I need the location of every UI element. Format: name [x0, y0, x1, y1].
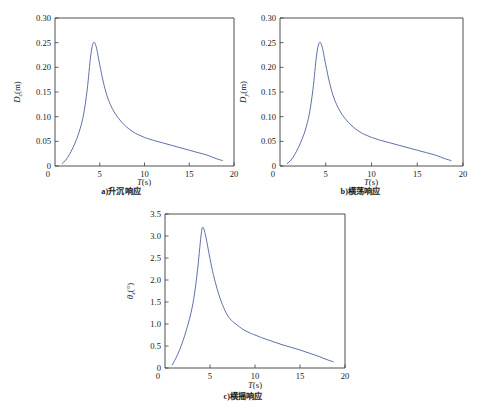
panel-a-axis-frame [55, 18, 234, 166]
panel-b-ytick-label: 0.30 [261, 13, 276, 23]
panel-c-y-ticks: 00.51.01.52.02.53.03.5 [150, 209, 168, 373]
panel-c-ytick-label: 3.0 [150, 231, 161, 241]
panel-c: 00.51.01.52.02.53.03.5 05101520 T(s) θx(… [123, 208, 363, 408]
panel-b: 00.050.100.150.200.250.30 05101520 T(s) … [244, 6, 477, 198]
panel-c-ytick-label: 3.5 [150, 209, 161, 219]
panel-c-xtick-label: 0 [156, 371, 160, 381]
panel-b-ytick-label: 0.20 [261, 62, 276, 72]
panel-b-xtick-label: 20 [459, 169, 468, 179]
panel-b-curve [287, 42, 451, 163]
panel-c-svg: 00.51.01.52.02.53.03.5 05101520 T(s) θx(… [123, 208, 363, 394]
panel-c-ytick-label: 2.5 [150, 253, 161, 263]
panel-c-ytick-label: 1.5 [150, 297, 161, 307]
panel-b-ytick-label: 0.15 [261, 87, 276, 97]
panel-b-xtick-label: 5 [324, 169, 328, 179]
panel-a-caption: a)升沉响应 [6, 184, 236, 196]
panel-c-curve [172, 227, 333, 365]
panel-a-xtick-label: 15 [185, 169, 194, 179]
panel-a-xtick-label: 0 [46, 169, 50, 179]
panel-a-svg: 00.050.100.150.200.250.30 05101520 T(s) … [6, 6, 236, 186]
panel-a-curve [62, 42, 222, 163]
panel-c-xtick-label: 20 [341, 371, 350, 381]
panel-c-x-ticks: 05101520 [156, 365, 350, 382]
panel-c-xtick-label: 15 [296, 371, 305, 381]
panel-a-xtick-label: 5 [98, 169, 102, 179]
panel-a-ytick-label: 0.10 [36, 112, 51, 122]
panel-c-xtick-label: 5 [208, 371, 212, 381]
panel-a-axes [55, 18, 234, 166]
panel-c-yaxis-title: θx(°) [125, 283, 136, 300]
panel-a-ytick-label: 0.15 [36, 87, 51, 97]
panel-c-caption: c)横摇响应 [123, 389, 363, 401]
panel-c-ytick-label: 2.0 [150, 275, 161, 285]
panel-b-xtick-label: 15 [413, 169, 422, 179]
panel-c-plot: 00.51.01.52.02.53.03.5 05101520 T(s) θx(… [123, 208, 363, 394]
panel-b-axis-frame [280, 18, 463, 166]
panel-c-axes [165, 214, 345, 368]
panel-b-axes [280, 18, 463, 166]
panel-b-yaxis-title: Dy(m) [238, 81, 249, 104]
panel-c-ytick-label: 1.0 [150, 319, 161, 329]
panel-b-ytick-label: 0.05 [261, 136, 276, 146]
panel-a: 00.050.100.150.200.250.30 05101520 T(s) … [6, 6, 236, 198]
panel-a-plot: 00.050.100.150.200.250.30 05101520 T(s) … [6, 6, 236, 186]
panel-a-ytick-label: 0.05 [36, 136, 51, 146]
panel-c-axis-frame [165, 214, 345, 368]
panel-a-xtick-label: 20 [230, 169, 239, 179]
panel-b-plot: 00.050.100.150.200.250.30 05101520 T(s) … [244, 6, 477, 186]
panel-b-svg: 00.050.100.150.200.250.30 05101520 T(s) … [244, 6, 477, 186]
panel-a-ytick-label: 0.30 [36, 13, 51, 23]
panel-a-yaxis-title: Dz(m) [12, 81, 23, 104]
panel-a-ytick-label: 0.25 [36, 38, 51, 48]
panel-b-ytick-label: 0.25 [261, 38, 276, 48]
panel-b-caption: b)横荡响应 [244, 184, 477, 196]
figure-rao-responses: 00.050.100.150.200.250.30 05101520 T(s) … [0, 0, 483, 412]
panel-c-ytick-label: 0.5 [150, 341, 161, 351]
panel-b-ytick-label: 0.10 [261, 112, 276, 122]
panel-b-xtick-label: 0 [271, 169, 275, 179]
panel-a-ytick-label: 0.20 [36, 62, 51, 72]
